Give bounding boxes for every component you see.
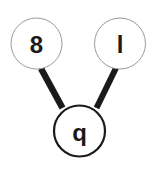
graph-diagram: 8 l q <box>0 0 155 173</box>
node-left[interactable]: 8 <box>11 18 62 69</box>
node-bottom-label: q <box>72 119 87 146</box>
node-right[interactable]: l <box>95 18 146 69</box>
diagram-canvas: 8 l q <box>0 0 155 173</box>
node-right-label: l <box>117 31 124 58</box>
edge-left-to-bottom <box>41 69 63 109</box>
node-left-label: 8 <box>30 31 43 58</box>
edge-right-to-bottom <box>97 68 117 108</box>
node-bottom[interactable]: q <box>54 106 105 157</box>
